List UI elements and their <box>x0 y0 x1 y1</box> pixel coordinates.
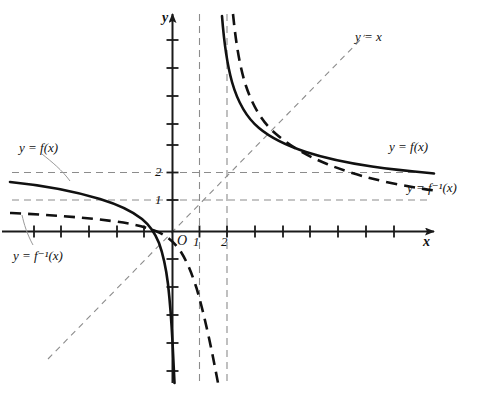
y-tick-label-2: 2 <box>155 165 162 178</box>
x-axis-label: x <box>423 235 430 249</box>
leader-f-left <box>42 154 70 181</box>
label-y-equals-x: y = x <box>355 30 382 43</box>
origin-label: O <box>177 234 187 248</box>
label-y-equals-f-inverse-of-x-left: y = f⁻¹(x) <box>13 249 63 262</box>
graph-canvas <box>0 0 483 393</box>
leader-finv-left <box>22 215 33 245</box>
label-y-equals-f-inverse-of-x-right: y = f⁻¹(x) <box>407 181 457 194</box>
y-axis-label: y <box>162 11 168 25</box>
math-figure-inverse-function-graph: y x O 1 2 1 2 y = f(x) y = f(x) y = f⁻¹(… <box>0 0 483 393</box>
curve-finv-right-branch <box>233 14 434 191</box>
label-y-equals-f-of-x-left: y = f(x) <box>19 141 58 154</box>
curve-finv-dashed-group <box>10 14 434 383</box>
guide-lines-group <box>12 14 428 383</box>
x-tick-label-1: 1 <box>193 235 200 248</box>
axes-group <box>2 14 434 383</box>
label-y-equals-f-of-x-right: y = f(x) <box>389 140 428 153</box>
x-tick-label-2: 2 <box>221 235 228 248</box>
curve-f-left-branch <box>10 182 175 383</box>
y-tick-label-1: 1 <box>155 193 162 206</box>
